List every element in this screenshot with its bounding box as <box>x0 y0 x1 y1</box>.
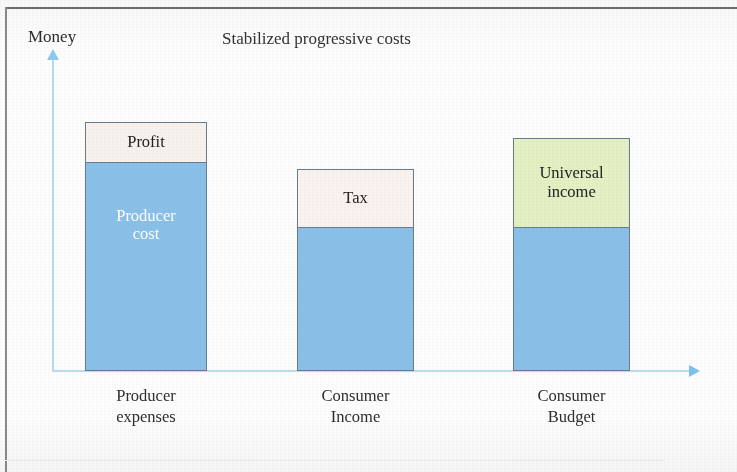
y-axis-label: Money <box>28 27 76 47</box>
bar-segment-tax: Tax <box>297 169 414 228</box>
bar-segment-consumer-income-base <box>297 228 414 371</box>
scanned-figure: Money Stabilized progressive costs Profi… <box>0 0 737 472</box>
category-0-line2: expenses <box>116 407 176 426</box>
bar-segment-profit: Profit <box>85 122 207 162</box>
bar-segment-tax-label: Tax <box>340 189 371 207</box>
y-axis-line <box>52 58 54 372</box>
bar-segment-universal-income-label: Universal income <box>536 164 606 201</box>
chart-plot-area: Money Stabilized progressive costs Profi… <box>0 0 737 472</box>
bar-segment-consumer-budget-base <box>513 228 630 371</box>
bar-segment-universal-income: Universal income <box>513 138 630 228</box>
category-2-line2: Budget <box>548 407 596 426</box>
category-2-line1: Consumer <box>538 386 606 405</box>
y-axis-arrow-icon <box>47 49 59 60</box>
category-label-producer-expenses: Producer expenses <box>85 385 207 427</box>
bar-segment-producer-cost: Producer cost <box>85 163 207 371</box>
producer-cost-line2: cost <box>133 224 160 243</box>
bar-segment-profit-label: Profit <box>124 133 168 151</box>
category-1-line1: Consumer <box>322 386 390 405</box>
category-label-consumer-income: Consumer Income <box>297 385 414 427</box>
x-axis-arrow-icon <box>689 365 700 377</box>
universal-income-line2: income <box>547 182 596 201</box>
bar-producer-expenses: Profit Producer cost <box>85 122 207 371</box>
bar-consumer-income: Tax <box>297 169 414 371</box>
producer-cost-line1: Producer <box>116 206 176 225</box>
bar-segment-producer-cost-label: Producer cost <box>113 207 179 244</box>
category-0-line1: Producer <box>116 386 176 405</box>
chart-title: Stabilized progressive costs <box>222 29 411 49</box>
category-label-consumer-budget: Consumer Budget <box>513 385 630 427</box>
category-1-line2: Income <box>331 407 380 426</box>
bar-consumer-budget: Universal income <box>513 138 630 371</box>
universal-income-line1: Universal <box>539 163 603 182</box>
